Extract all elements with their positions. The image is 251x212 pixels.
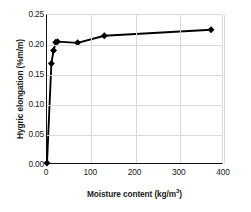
grid-line-vertical — [224, 15, 225, 163]
grid-line-horizontal — [47, 45, 222, 46]
data-point-marker — [48, 60, 55, 67]
grid-line-horizontal — [47, 105, 222, 106]
data-point-marker — [208, 26, 215, 33]
x-axis-label: Moisture content (kg/m3) — [46, 188, 223, 199]
y-tick-label: 0.20 — [16, 39, 44, 49]
x-tick-label: 100 — [84, 167, 97, 177]
grid-line-vertical — [180, 15, 181, 163]
x-axis-label-tail: ) — [179, 189, 182, 199]
grid-line-vertical — [136, 15, 137, 163]
x-axis-tick-labels: 0100200300400 — [0, 167, 251, 181]
data-point-marker — [101, 32, 108, 39]
y-tick-label: 0.10 — [16, 99, 44, 109]
grid-line-vertical — [91, 15, 92, 163]
plot-area — [46, 14, 223, 164]
series-canvas — [47, 15, 222, 163]
x-axis-label-text: Moisture content (kg/m — [87, 189, 176, 199]
grid-line-horizontal — [47, 135, 222, 136]
data-series-line — [47, 30, 211, 163]
x-tick-label: 300 — [172, 167, 185, 177]
y-tick-label: 0.25 — [16, 9, 44, 19]
y-tick-label: 0.15 — [16, 69, 44, 79]
x-tick-label: 0 — [44, 167, 48, 177]
data-point-marker — [44, 160, 51, 167]
x-tick-label: 400 — [216, 167, 229, 177]
x-tick-label: 200 — [128, 167, 141, 177]
y-tick-label: 0.05 — [16, 129, 44, 139]
chart-figure: Hygric elongation (%m/m) 0.000.050.100.1… — [0, 0, 251, 212]
data-point-marker — [50, 47, 57, 54]
grid-line-horizontal — [47, 75, 222, 76]
